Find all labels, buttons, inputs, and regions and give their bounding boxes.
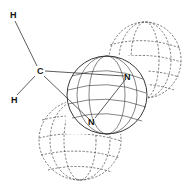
bond-c-h1 — [15, 21, 37, 66]
atom-n-upper: N — [124, 72, 131, 82]
molecule-orbital-diagram: H C H N N — [0, 0, 187, 185]
atom-h-top: H — [10, 10, 17, 20]
bond-c-h2 — [17, 76, 35, 95]
atom-h-bottom: H — [11, 95, 18, 105]
atom-c: C — [37, 66, 44, 76]
atom-n-lower: N — [88, 117, 95, 127]
central-solid-orbital — [66, 56, 148, 134]
